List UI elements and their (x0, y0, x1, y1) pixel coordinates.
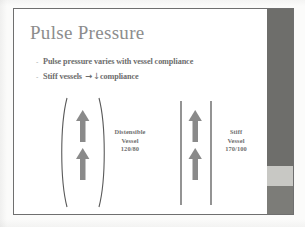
right-arrow-icon: → (84, 71, 93, 81)
slide-canvas: Pulse Pressure - Pulse pressure varies w… (14, 9, 269, 214)
label-line-1: Stiff (210, 128, 262, 137)
bullet-marker-icon: - (36, 72, 43, 82)
distensible-vessel-label: Distensible Vessel 120/80 (102, 128, 158, 154)
bullet-text: Stiff vessels →↓compliance (43, 71, 139, 82)
bullet-text-prefix: Stiff vessels (43, 72, 84, 81)
bullet-marker-icon: - (36, 57, 43, 67)
label-line-2: Vessel (210, 137, 262, 146)
slide-frame: Pulse Pressure - Pulse pressure varies w… (13, 8, 294, 215)
slide-accent-band-bottom-segment (267, 186, 293, 214)
vessel-comparison-diagram: Distensible Vessel 120/80 (14, 95, 269, 213)
stiff-vessel-label: Stiff Vessel 170/100 (210, 128, 262, 154)
scanned-page: Pulse Pressure - Pulse pressure varies w… (0, 0, 305, 227)
label-line-3: 120/80 (102, 145, 158, 154)
flow-arrow-lower (76, 148, 89, 180)
vessel-wall-left (62, 98, 67, 207)
bullet-text: Pulse pressure varies with vessel compli… (43, 56, 193, 67)
list-item: - Pulse pressure varies with vessel comp… (36, 56, 256, 67)
down-arrow-icon: ↓ (93, 71, 100, 81)
page-title: Pulse Pressure (30, 22, 145, 44)
label-line-3: 170/100 (210, 145, 262, 154)
label-line-1: Distensible (102, 128, 158, 137)
flow-arrow-lower (189, 148, 202, 180)
bullet-text-suffix: compliance (100, 72, 139, 81)
flow-arrow-upper (189, 110, 202, 142)
bullet-list: - Pulse pressure varies with vessel comp… (36, 56, 256, 86)
slide-accent-band-light-segment (267, 166, 293, 186)
label-line-2: Vessel (102, 137, 158, 146)
flow-arrow-upper (76, 110, 89, 142)
list-item: - Stiff vessels →↓compliance (36, 71, 256, 82)
